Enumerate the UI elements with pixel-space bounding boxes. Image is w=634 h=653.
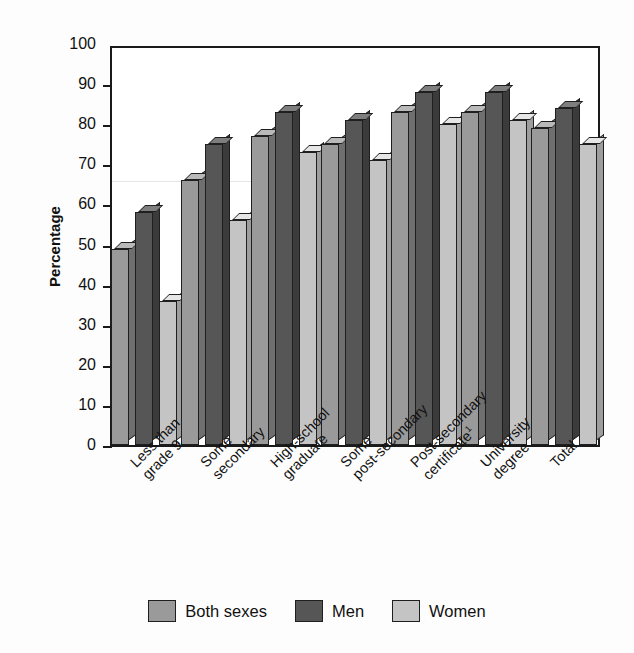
bar-women <box>509 120 527 445</box>
bar-side <box>597 134 604 440</box>
bar-face <box>555 108 573 445</box>
legend-label: Men <box>332 602 364 621</box>
y-axis-tick-mark <box>103 125 112 127</box>
bar-men <box>135 212 153 445</box>
plot-area <box>110 46 600 447</box>
bar-men <box>555 108 573 445</box>
bar-face <box>509 120 527 445</box>
bar-women <box>369 160 387 445</box>
bar-both-sexes <box>531 128 549 445</box>
legend-swatch <box>392 600 420 622</box>
bar-group <box>181 48 254 445</box>
y-axis-tick-mark <box>103 286 112 288</box>
bar-face <box>111 249 129 445</box>
bar-women <box>439 124 457 445</box>
bar-both-sexes <box>321 144 339 445</box>
bar-face <box>181 180 199 445</box>
bar-men <box>485 92 503 445</box>
bar-face <box>345 120 363 445</box>
legend-swatch <box>148 600 176 622</box>
y-axis-tick-mark <box>103 446 112 448</box>
bar-group <box>321 48 394 445</box>
legend-swatch <box>295 600 323 622</box>
footnote-marker: 1 <box>463 424 474 435</box>
bar-face <box>251 136 269 445</box>
legend-label: Women <box>429 602 486 621</box>
bar-both-sexes <box>251 136 269 445</box>
y-axis-tick-label: 40 <box>54 276 96 294</box>
bar-face <box>369 160 387 445</box>
y-axis-tick-label: 30 <box>54 316 96 334</box>
plot-inner <box>112 48 598 445</box>
bar-group <box>461 48 534 445</box>
legend-item-both-sexes: Both sexes <box>148 600 267 622</box>
y-axis-tick-mark <box>103 406 112 408</box>
bar-group <box>531 48 604 445</box>
y-axis-tick-mark <box>103 326 112 328</box>
y-axis-tick-label: 10 <box>54 396 96 414</box>
y-axis-tick-label: 100 <box>54 35 96 53</box>
y-axis-tick-label: 20 <box>54 356 96 374</box>
bar-women <box>579 144 597 445</box>
bar-both-sexes <box>181 180 199 445</box>
y-axis-tick-mark <box>103 366 112 368</box>
bar-face <box>439 124 457 445</box>
bar-face <box>135 212 153 445</box>
y-axis-tick-mark <box>103 205 112 207</box>
bar-group <box>391 48 464 445</box>
bar-chart-figure: Percentage 1009080706050403020100 Less t… <box>0 0 634 653</box>
legend-item-men: Men <box>295 600 364 622</box>
chart-legend: Both sexesMenWomen <box>0 600 634 622</box>
bar-face <box>205 144 223 445</box>
bar-face <box>579 144 597 445</box>
y-axis-tick-label: 50 <box>54 236 96 254</box>
y-axis-tick-label: 70 <box>54 155 96 173</box>
y-axis-tick-label: 60 <box>54 195 96 213</box>
legend-item-women: Women <box>392 600 486 622</box>
y-axis-tick-mark <box>103 165 112 167</box>
bar-face <box>299 152 317 445</box>
bar-group <box>111 48 184 445</box>
y-axis-tick-label: 0 <box>54 436 96 454</box>
bar-face <box>415 92 433 445</box>
bar-men <box>205 144 223 445</box>
y-axis-tick-mark <box>103 85 112 87</box>
bar-men <box>275 112 293 445</box>
bar-men <box>345 120 363 445</box>
y-axis-tick-label: 90 <box>54 75 96 93</box>
y-axis-tick-mark <box>103 246 112 248</box>
legend-label: Both sexes <box>185 602 267 621</box>
bar-face <box>275 112 293 445</box>
bar-face <box>321 144 339 445</box>
bar-face <box>485 92 503 445</box>
y-axis-tick-label: 80 <box>54 115 96 133</box>
bar-both-sexes <box>111 249 129 445</box>
bar-men <box>415 92 433 445</box>
bar-face <box>531 128 549 445</box>
bar-women <box>299 152 317 445</box>
bar-group <box>251 48 324 445</box>
